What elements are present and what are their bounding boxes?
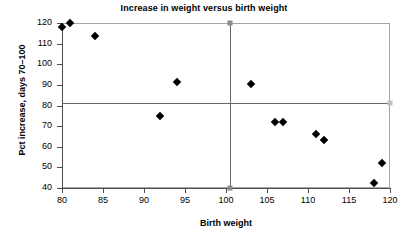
reference-line-endpoint-marker [228, 21, 233, 26]
y-axis-tick-label: 100 [28, 59, 52, 68]
y-axis-tick-label: 70 [28, 121, 52, 130]
y-axis-tick-label: 60 [28, 142, 52, 151]
x-axis-tick-label: 105 [254, 196, 280, 205]
horizontal-mean-line [62, 103, 390, 104]
x-axis-tick-label: 95 [172, 196, 198, 205]
y-axis-tick-label: 110 [28, 39, 52, 48]
y-axis-tick [57, 106, 62, 107]
y-axis-tick [57, 167, 62, 168]
y-axis-tick-label: 50 [28, 162, 52, 171]
y-axis-tick [57, 147, 62, 148]
x-axis-tick [308, 189, 309, 193]
x-axis-tick-label: 110 [295, 196, 321, 205]
x-axis-tick-label: 120 [377, 196, 403, 205]
plot-area [62, 23, 390, 188]
y-axis-tick [57, 85, 62, 86]
x-axis-tick-label: 85 [90, 196, 116, 205]
x-axis-tick [349, 189, 350, 193]
x-axis-tick [390, 189, 391, 193]
reference-line-endpoint-marker [228, 186, 233, 191]
y-axis-tick-label: 40 [28, 183, 52, 192]
x-axis-tick-label: 115 [336, 196, 362, 205]
x-axis-tick [185, 189, 186, 193]
y-axis-tick [57, 44, 62, 45]
y-axis-tick-label: 90 [28, 80, 52, 89]
x-axis-tick-label: 100 [213, 196, 239, 205]
y-axis-tick [57, 64, 62, 65]
y-axis-tick [57, 126, 62, 127]
x-axis-tick [267, 189, 268, 193]
x-axis-tick [62, 189, 63, 193]
y-axis-tick-label: 80 [28, 101, 52, 110]
x-axis-tick [103, 189, 104, 193]
vertical-mean-line [230, 23, 231, 188]
y-axis-title: Pct increase, days 70–100 [17, 15, 27, 185]
x-axis-tick [144, 189, 145, 193]
reference-line-endpoint-marker [388, 101, 393, 106]
y-axis-tick-label: 120 [28, 18, 52, 27]
x-axis-tick-label: 80 [49, 196, 75, 205]
scatter-chart: Increase in weight versus birth weight 4… [0, 0, 408, 238]
chart-title: Increase in weight versus birth weight [0, 3, 408, 14]
y-axis-line [62, 23, 63, 189]
x-axis-tick-label: 90 [131, 196, 157, 205]
x-axis-title: Birth weight [62, 218, 390, 228]
